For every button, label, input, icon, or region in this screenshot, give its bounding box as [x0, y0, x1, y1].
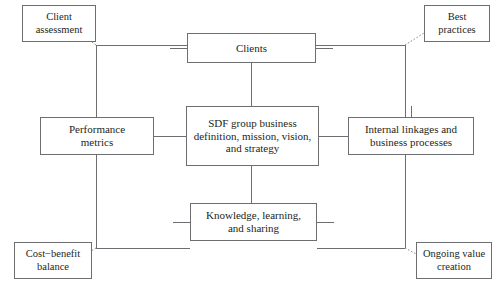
diagram-canvas: Client assessment Best practices Cost−be…: [0, 0, 502, 283]
node-knowledge-learning-sharing[interactable]: Knowledge, learning, and sharing: [190, 203, 317, 241]
node-label: Cost−benefit balance: [23, 248, 83, 273]
dotted-link-best-practices: [405, 33, 424, 45]
node-ongoing-value-creation[interactable]: Ongoing value creation: [416, 242, 492, 279]
node-sdf-group-business[interactable]: SDF group business definition, mission, …: [186, 106, 319, 166]
node-label: Client assessment: [33, 11, 86, 36]
node-cost-benefit-balance[interactable]: Cost−benefit balance: [14, 242, 92, 279]
node-label: Best practices: [435, 11, 478, 36]
node-internal-linkages[interactable]: Internal linkages and business processes: [348, 117, 474, 155]
node-label: SDF group business definition, mission, …: [191, 117, 315, 156]
node-clients[interactable]: Clients: [187, 33, 316, 63]
node-label: Clients: [233, 42, 270, 55]
node-label: Performance metrics: [66, 123, 128, 149]
node-performance-metrics[interactable]: Performance metrics: [40, 117, 154, 155]
node-label: Knowledge, learning, and sharing: [203, 209, 304, 235]
node-label: Ongoing value creation: [420, 248, 488, 273]
node-best-practices[interactable]: Best practices: [424, 5, 490, 42]
node-label: Internal linkages and business processes: [362, 123, 460, 149]
node-client-assessment[interactable]: Client assessment: [22, 5, 96, 42]
